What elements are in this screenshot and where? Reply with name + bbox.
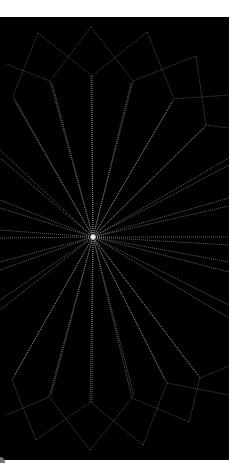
outline-edge	[6, 64, 50, 81]
outline-edge	[38, 33, 92, 76]
ray-line	[52, 83, 93, 237]
ray-line	[0, 237, 93, 310]
ray-line	[0, 237, 93, 238]
outline-edge	[147, 32, 174, 99]
outline-edge	[12, 380, 36, 440]
ray-line	[93, 198, 229, 237]
ray-line	[0, 230, 93, 237]
ray-line	[0, 237, 93, 262]
ray-line	[0, 150, 93, 237]
outline-edge	[200, 366, 229, 378]
ray-line	[93, 237, 229, 318]
outline-edge	[6, 397, 49, 415]
ray-line	[0, 237, 93, 300]
outline-edge	[49, 397, 90, 450]
line-art-image	[0, 17, 229, 460]
outline-edge	[143, 383, 167, 445]
ray-line	[93, 237, 229, 272]
ray-line	[0, 237, 93, 270]
radial-line-drawing	[0, 17, 229, 460]
outline-edge	[132, 398, 189, 422]
ray-line	[93, 102, 172, 237]
ray-line	[93, 158, 229, 237]
outline-edge	[91, 27, 133, 81]
ray-line	[51, 237, 93, 395]
ray-line	[93, 237, 198, 375]
ray-line	[93, 237, 229, 305]
ray-line	[93, 237, 134, 396]
outline-edge	[13, 33, 38, 96]
ray-line	[14, 237, 93, 376]
ray-line	[93, 165, 229, 237]
outline-edge	[36, 402, 90, 440]
outline-edge	[196, 56, 206, 125]
ray-line	[93, 125, 206, 237]
ray-line	[93, 83, 131, 237]
ray-line	[14, 100, 93, 237]
outline-edge	[92, 32, 147, 76]
outline-edge	[189, 378, 200, 422]
ray-line	[93, 237, 165, 380]
outline-edge	[90, 398, 132, 450]
outline-edge	[90, 402, 143, 445]
outline-edge	[133, 56, 196, 81]
outline-edge	[50, 27, 91, 81]
ray-line	[0, 158, 93, 237]
ray-line	[93, 237, 132, 398]
ray-line	[0, 200, 93, 237]
outline-edge	[206, 125, 229, 128]
center-hub	[91, 235, 95, 239]
ray-line	[93, 206, 229, 237]
